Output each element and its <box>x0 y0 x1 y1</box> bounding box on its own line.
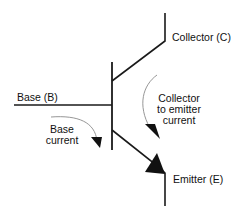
base-current-arrow-icon <box>91 137 102 148</box>
base-label: Base (B) <box>17 92 58 103</box>
ce-current-label: Collector to emitter current <box>151 93 207 126</box>
base-current-line2: current <box>44 135 80 146</box>
collector-label: Collector (C) <box>172 32 231 43</box>
base-current-label: Base current <box>44 124 80 146</box>
ce-current-line3: current <box>151 115 207 126</box>
emitter-label: Emitter (E) <box>173 174 223 185</box>
collector-lead <box>112 13 165 81</box>
emitter-arrow-icon <box>145 153 165 174</box>
ce-current-arrow-icon <box>145 124 160 139</box>
